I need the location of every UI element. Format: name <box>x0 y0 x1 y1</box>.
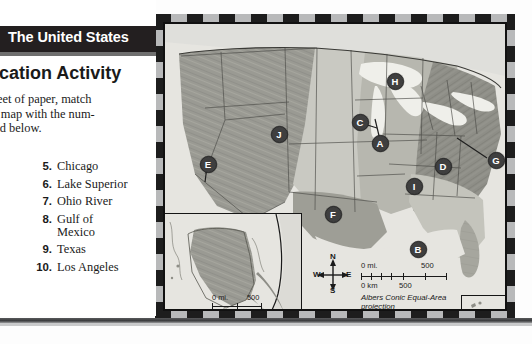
map-marker-d[interactable]: D <box>435 158 452 175</box>
frame-dash-right <box>507 174 515 190</box>
frame-dash-left <box>155 46 163 62</box>
scale-miles-max: 500 <box>421 261 434 270</box>
frame-dash-left <box>155 174 163 190</box>
alaska-scale-bar: 0 mi. 500 0 km 500 <box>212 293 268 309</box>
instructions-line-2: he map with the num- <box>0 107 156 122</box>
compass-south-label: S <box>330 286 335 295</box>
map-marker-c[interactable]: C <box>352 114 369 131</box>
map-canvas: ABCDEFGHIJ N S W E 0 mi. <box>165 24 505 309</box>
frame-dash-right <box>507 206 515 222</box>
scale-miles-zero: 0 mi. <box>361 261 377 270</box>
scale-km-zero: 0 km <box>361 281 377 290</box>
frame-dash-right <box>507 270 515 286</box>
page-bottom-rule-light <box>0 323 532 326</box>
list-item-number: 7. <box>30 195 57 208</box>
frame-dash-top <box>347 14 363 22</box>
map-marker-b[interactable]: B <box>410 241 427 258</box>
compass-east-label: E <box>346 270 351 279</box>
frame-dash-right <box>507 110 515 126</box>
frame-dash-top <box>187 14 203 22</box>
map-marker-a[interactable]: A <box>372 135 389 152</box>
list-item: 8.Gulf ofMexico <box>30 213 156 239</box>
frame-dash-top <box>219 14 235 22</box>
banner-shadow <box>0 52 156 56</box>
list-item-label: Ohio River <box>57 195 156 208</box>
worksheet-text-panel: The United States ocation Activity sheet… <box>0 0 156 316</box>
map-marker-e[interactable]: E <box>200 156 217 173</box>
frame-dash-left <box>155 302 163 318</box>
frame-dash-right <box>507 142 515 158</box>
instructions-line-1: sheet of paper, match <box>0 92 156 107</box>
list-item-label: Lake Superior <box>57 178 156 191</box>
banner-title-bar: The United States <box>0 26 156 52</box>
list-item: 10.Los Angeles <box>30 261 156 274</box>
alaska-inset-map: 0 mi. 500 0 km 500 <box>165 213 302 309</box>
frame-dash-right <box>507 46 515 62</box>
frame-dash-top <box>443 14 459 22</box>
map-marker-f[interactable]: F <box>325 206 342 223</box>
frame-dash-right <box>507 238 515 254</box>
list-item-number: 6. <box>30 178 57 191</box>
frame-dash-top <box>475 14 491 22</box>
list-item-label: Texas <box>57 243 156 256</box>
frame-dash-top <box>379 14 395 22</box>
list-item-label-line2: Mexico <box>57 226 156 239</box>
place-list: 5.Chicago6.Lake Superior7.Ohio River8.Gu… <box>30 160 156 278</box>
map-figure: ABCDEFGHIJ N S W E 0 mi. <box>155 14 515 319</box>
list-item-label: Chicago <box>57 160 156 173</box>
frame-dash-right <box>507 302 515 318</box>
frame-dash-left <box>155 14 163 30</box>
list-item: 9.Texas <box>30 243 156 256</box>
frame-dash-right <box>507 14 515 30</box>
scale-ruler-miles <box>361 273 469 280</box>
map-marker-j[interactable]: J <box>271 126 288 143</box>
list-item-number: 5. <box>30 160 57 173</box>
projection-line-1: Albers Conic Equal-Area <box>361 293 469 302</box>
alaska-scale-miles-max: 500 <box>247 293 259 302</box>
map-scale-bar: 0 mi. 500 0 km 500 Albers Conic Equal-Ar… <box>361 261 469 309</box>
instructions-line-3: sted below. <box>0 121 156 136</box>
compass-rose-icon: N S W E <box>313 253 353 297</box>
banner-title: The United States <box>8 29 129 45</box>
frame-dash-left <box>155 110 163 126</box>
compass-north-label: N <box>330 252 336 261</box>
frame-dash-left <box>155 238 163 254</box>
projection-line-2: projection <box>361 302 469 309</box>
list-item: 7.Ohio River <box>30 195 156 208</box>
frame-dash-right <box>507 78 515 94</box>
list-item: 5.Chicago <box>30 160 156 173</box>
list-item-label: Gulf ofMexico <box>57 213 156 239</box>
frame-dash-left <box>155 78 163 94</box>
frame-dash-left <box>155 142 163 158</box>
list-item-number: 9. <box>30 243 57 256</box>
frame-dash-left <box>155 270 163 286</box>
frame-dash-top <box>283 14 299 22</box>
list-item-label: Los Angeles <box>57 261 156 274</box>
scale-km-labels: 0 km 500 <box>361 281 469 292</box>
alaska-scale-miles-zero: 0 mi. <box>212 293 228 302</box>
map-projection-note: Albers Conic Equal-Area projection <box>361 293 469 309</box>
map-marker-i[interactable]: I <box>406 178 423 195</box>
compass-west-label: W <box>313 270 321 279</box>
section-title: ocation Activity <box>0 63 121 84</box>
list-item: 6.Lake Superior <box>30 178 156 191</box>
page-root: The United States ocation Activity sheet… <box>0 0 532 344</box>
frame-dash-top <box>315 14 331 22</box>
list-item-number: 8. <box>30 213 57 239</box>
map-marker-h[interactable]: H <box>387 73 404 90</box>
frame-dash-left <box>155 206 163 222</box>
frame-dash-top <box>251 14 267 22</box>
instructions-paragraph: sheet of paper, match he map with the nu… <box>0 92 156 136</box>
scale-miles-labels: 0 mi. 500 <box>361 261 469 272</box>
frame-dash-top <box>411 14 427 22</box>
map-marker-g[interactable]: G <box>488 152 505 169</box>
scale-km-max: 500 <box>399 281 412 290</box>
list-item-number: 10. <box>30 261 57 274</box>
